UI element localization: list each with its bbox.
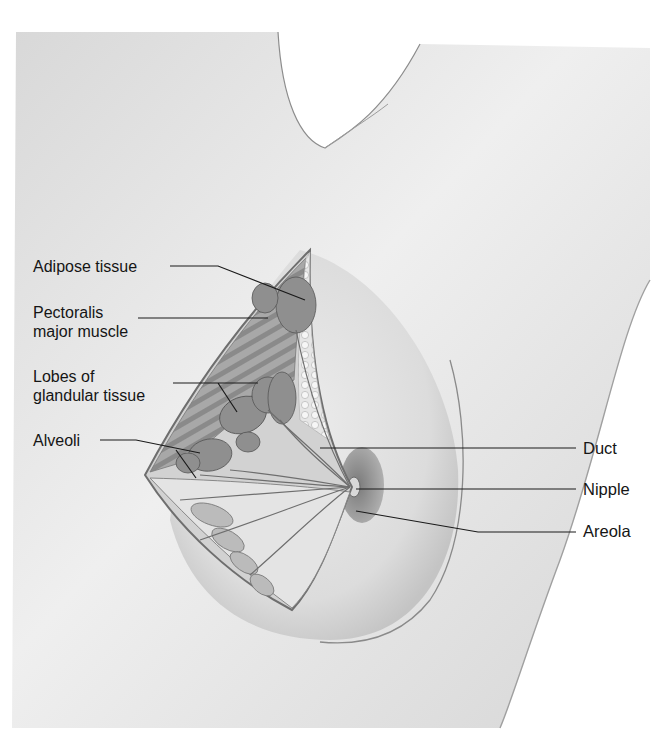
label-lobes-of-glandular-tissue: Lobes of glandular tissue bbox=[33, 367, 145, 405]
label-nipple: Nipple bbox=[583, 480, 630, 499]
label-pectoralis-major-muscle: Pectoralis major muscle bbox=[33, 303, 128, 341]
label-alveoli: Alveoli bbox=[33, 431, 80, 450]
breast-anatomy-illustration bbox=[0, 0, 669, 730]
label-areola: Areola bbox=[583, 522, 631, 541]
label-duct: Duct bbox=[583, 439, 617, 458]
label-adipose-tissue: Adipose tissue bbox=[33, 257, 137, 276]
